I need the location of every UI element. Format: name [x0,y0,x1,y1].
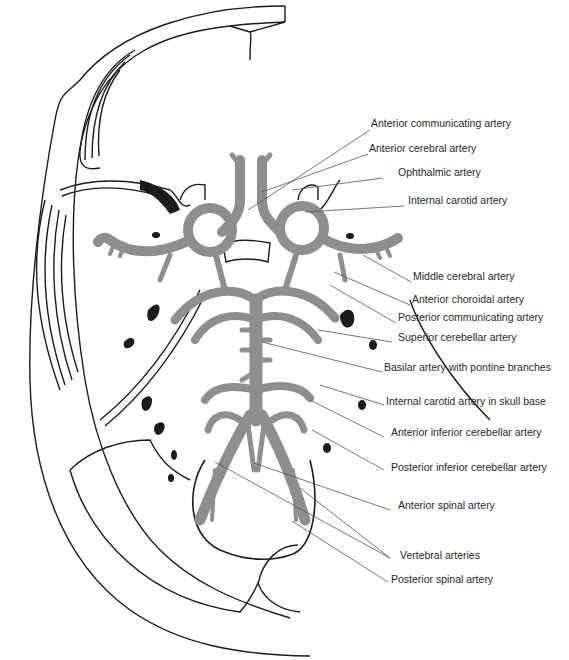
label-internal-carotid-artery: Internal carotid artery [408,194,507,206]
label-middle-cerebral-artery: Middle cerebral artery [413,270,515,282]
label-superior-cerebellar-artery: Superior cerebellar artery [398,331,516,343]
label-posterior-communicating-artery: Posterior communicating artery [398,311,543,323]
leader-superior-cerebellar-artery [318,330,392,342]
leader-anterior-cerebral-artery [262,154,368,192]
leader-anterior-spinal-artery [254,463,390,510]
anatomy-figure: Anterior communicating arteryAnterior ce… [0,0,569,660]
brain-base-illustration [0,0,569,660]
leader-basilar-artery-with-pontine-branches [262,342,382,372]
label-ophthalmic-artery: Ophthalmic artery [398,166,481,178]
label-basilar-artery-with-pontine-branches: Basilar artery with pontine branches [384,361,551,373]
label-vertebral-arteries: Vertebral arteries [400,549,480,561]
label-posterior-inferior-cerebellar-artery: Posterior inferior cerebellar artery [391,461,547,473]
leader-vertebral-artery-1 [300,488,390,558]
leader-middle-cerebral-artery [363,255,411,282]
leader-anterior-choroidal-artery [334,272,410,305]
label-anterior-cerebral-artery: Anterior cerebral artery [369,142,476,154]
label-anterior-inferior-cerebellar-artery: Anterior inferior cerebellar artery [391,426,542,438]
leader-posterior-communicating-artery [330,285,396,323]
label-internal-carotid-artery-in-skull-base: Internal carotid artery in skull base [386,395,546,407]
label-posterior-spinal-artery: Posterior spinal artery [391,573,493,585]
leader-ophthalmic-artery [292,178,383,190]
leader-posterior-inferior-cerebellar-artery [312,430,384,470]
label-anterior-spinal-artery: Anterior spinal artery [398,499,495,511]
leader-anterior-inferior-cerebellar-artery [310,400,384,437]
label-anterior-choroidal-artery: Anterior choroidal artery [412,293,524,305]
label-anterior-communicating-artery: Anterior communicating artery [371,117,511,129]
leader-vertebral-artery-0 [215,462,390,558]
sphenoid-wing [140,180,180,214]
leader-internal-carotid-artery-in-skull-base [320,385,384,405]
